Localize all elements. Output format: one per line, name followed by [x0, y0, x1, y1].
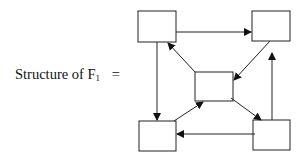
edge-center-to-tl	[168, 43, 195, 72]
node-top-right	[252, 11, 290, 41]
node-bottom-left	[139, 121, 176, 151]
figure: Structure of F1 =	[0, 0, 307, 160]
edge-bl-to-center	[174, 102, 203, 121]
edge-tr-to-center	[234, 41, 270, 80]
node-bottom-right	[253, 120, 290, 150]
node-top-left	[138, 11, 176, 42]
edge-center-to-br	[231, 98, 261, 120]
node-center	[195, 72, 233, 101]
graph-diagram	[0, 0, 307, 160]
